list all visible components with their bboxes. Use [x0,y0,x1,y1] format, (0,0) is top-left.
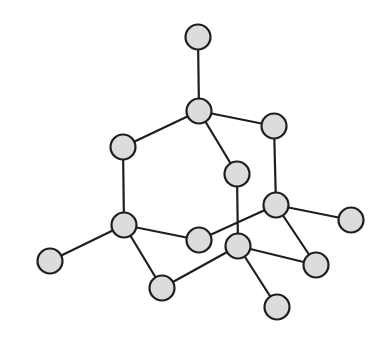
atom-a13 [150,276,175,301]
atom-a1 [186,25,211,50]
atom-a7 [339,208,364,233]
atom-a3 [262,114,287,139]
atom-a10 [226,234,251,259]
atom-a5 [225,162,250,187]
atom-a8 [112,213,137,238]
atoms-layer [38,25,364,320]
atom-a2 [187,99,212,124]
atom-a9 [187,228,212,253]
atom-a6 [264,193,289,218]
atom-a14 [265,295,290,320]
atom-a4 [111,135,136,160]
atom-a12 [304,253,329,278]
atom-a11 [38,249,63,274]
molecule-diagram [0,0,387,341]
